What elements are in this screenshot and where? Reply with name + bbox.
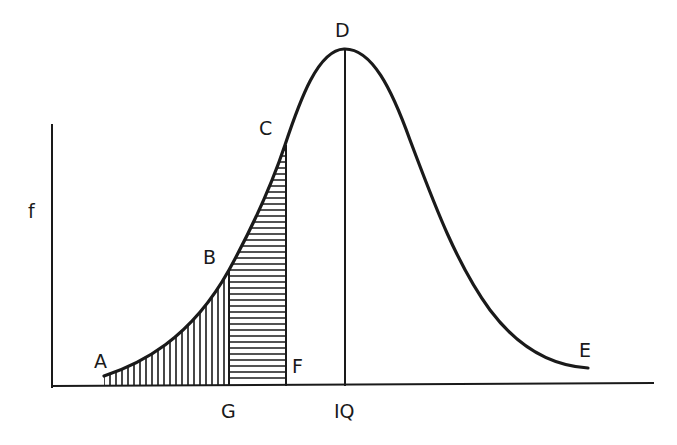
point-label-a: A: [94, 350, 107, 372]
x-label-iq: IQ: [334, 400, 355, 422]
horizontal-hatch-region: [229, 150, 286, 378]
x-label-g: G: [221, 400, 236, 422]
x-axis: [52, 383, 654, 386]
y-axis-label: f: [28, 200, 36, 222]
point-label-c: C: [259, 117, 272, 139]
point-label-e: E: [579, 339, 591, 361]
distribution-diagram: f A B C D E F G IQ: [0, 0, 677, 445]
point-label-b: B: [203, 246, 216, 268]
point-label-d: D: [335, 19, 350, 41]
point-label-f: F: [292, 355, 303, 377]
vertical-hatch-region: [104, 250, 224, 386]
